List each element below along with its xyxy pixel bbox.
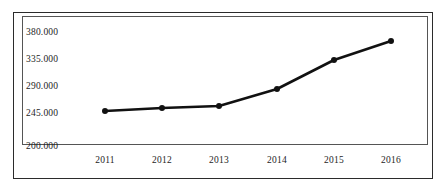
y-axis-tick-label: 245.000 (26, 108, 88, 118)
y-axis-tick-label: 335.000 (26, 54, 88, 64)
x-axis-tick-label: 2013 (196, 155, 242, 165)
line-chart-figure: 380.000 335.000 290.000 245.000 200.000 … (0, 0, 446, 191)
x-axis-tick-label: 2011 (82, 155, 128, 165)
x-axis-tick-label: 2014 (254, 155, 300, 165)
x-axis-tick-label: 2016 (368, 155, 414, 165)
y-axis-tick-label: 290.000 (26, 81, 88, 91)
x-axis-tick-label: 2012 (139, 155, 185, 165)
y-axis-tick-label: 380.000 (26, 27, 88, 37)
x-axis-tick-label: 2015 (311, 155, 357, 165)
y-axis-tick-label: 200.000 (26, 141, 88, 151)
